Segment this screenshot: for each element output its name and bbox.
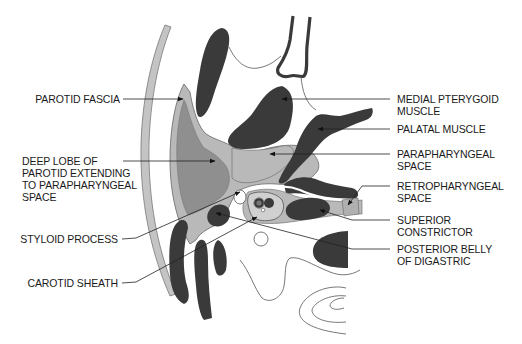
label-line: PAROTID EXTENDING (22, 167, 137, 179)
label-line: SPACE (397, 192, 504, 204)
label-line: MEDIAL PTERYGOID (397, 93, 499, 105)
label-superior-constrictor: SUPERIOR CONSTRICTOR (397, 214, 473, 238)
label-line: CONSTRICTOR (397, 226, 473, 238)
label-line: OF DIGASTRIC (397, 255, 492, 267)
label-parapharyngeal-space: PARAPHARYNGEAL SPACE (397, 148, 495, 172)
label-retropharyngeal-space: RETROPHARYNGEAL SPACE (397, 180, 504, 204)
neck-muscle-inner (213, 240, 227, 276)
vein-lumen (256, 200, 261, 205)
label-deep-lobe: DEEP LOBE OF PAROTID EXTENDING TO PARAPH… (22, 155, 137, 203)
label-medial-pterygoid: MEDIAL PTERYGOID MUSCLE (397, 93, 499, 117)
label-carotid-sheath: CAROTID SHEATH (20, 277, 118, 289)
label-line: POSTERIOR BELLY (397, 243, 492, 255)
vagus-nerve (261, 208, 265, 212)
label-line: MUSCLE (397, 105, 499, 117)
label-line: PARAPHARYNGEAL (397, 148, 495, 160)
label-palatal-muscle: PALATAL MUSCLE (397, 123, 486, 135)
label-line: CAROTID SHEATH (20, 277, 118, 289)
mastoid-outline (229, 47, 281, 68)
medial-pterygoid-muscle (228, 86, 293, 149)
neck-muscle-middle (194, 240, 212, 320)
label-line: SPACE (22, 191, 137, 203)
posterior-belly-digastric (313, 231, 348, 268)
label-line: PAROTID FASCIA (28, 93, 120, 105)
label-line: DEEP LOBE OF (22, 155, 137, 167)
tube-structure (278, 16, 310, 77)
label-posterior-belly-digastric: POSTERIOR BELLY OF DIGASTRIC (397, 243, 492, 267)
internal-carotid-artery (264, 198, 274, 208)
vertebra-outline-outer (299, 287, 346, 334)
small-vessel-outline (254, 232, 268, 246)
label-line: STYLOID PROCESS (20, 233, 118, 245)
label-line: RETROPHARYNGEAL (397, 180, 504, 192)
vertebra-outline-core (330, 298, 344, 309)
label-line: SPACE (397, 160, 495, 172)
pharyngeal-outline (301, 76, 316, 110)
label-parotid-fascia: PAROTID FASCIA (28, 93, 120, 105)
label-line: PALATAL MUSCLE (397, 123, 486, 135)
upper-muscle (196, 28, 229, 117)
retropharyngeal-space (342, 198, 359, 216)
label-line: SUPERIOR (397, 214, 473, 226)
label-line: TO PARAPHARYNGEAL (22, 179, 137, 191)
label-styloid-process: STYLOID PROCESS (20, 233, 118, 245)
